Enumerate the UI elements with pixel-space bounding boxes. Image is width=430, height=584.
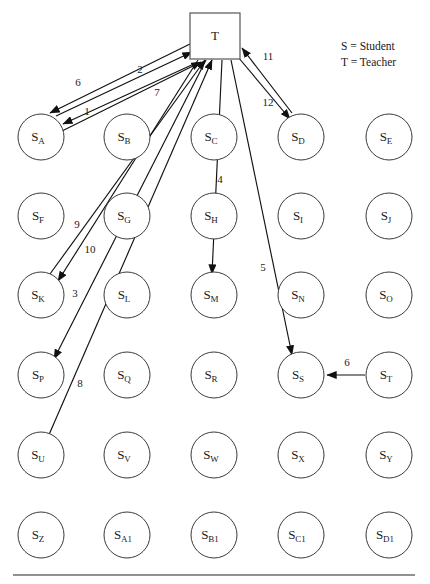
student-node-s_m[interactable]: SM bbox=[191, 272, 237, 318]
edge-label-1: 1 bbox=[84, 105, 90, 117]
edge-label-2: 2 bbox=[137, 63, 143, 75]
legend-line-1: S = Student bbox=[341, 40, 396, 52]
edge-label-12: 12 bbox=[263, 96, 274, 108]
teacher-node-layer: T bbox=[190, 13, 240, 59]
edge-label-8: 8 bbox=[77, 377, 83, 389]
edge-label-6: 6 bbox=[75, 76, 81, 88]
edge-t-to-s_d bbox=[238, 57, 290, 119]
edge-t-to-s_m bbox=[212, 60, 222, 274]
student-node-s_p[interactable]: SP bbox=[18, 352, 64, 398]
student-node-s_s[interactable]: SS bbox=[278, 352, 324, 398]
edge-label-7: 7 bbox=[154, 86, 160, 98]
student-node-s_q[interactable]: SQ bbox=[104, 352, 150, 398]
student-node-s_a[interactable]: SA bbox=[18, 114, 64, 160]
edge-label-11: 11 bbox=[263, 50, 274, 62]
student-node-s_n[interactable]: SN bbox=[278, 272, 324, 318]
nodes-layer: SASBSCSDSESFSGSHSISJSKSLSMSNSOSPSQSRSSST… bbox=[18, 114, 412, 558]
student-node-s_t[interactable]: ST bbox=[366, 352, 412, 398]
student-node-s_b[interactable]: SB bbox=[104, 114, 150, 160]
student-node-s_c[interactable]: SC bbox=[191, 114, 237, 160]
student-node-s_e[interactable]: SE bbox=[366, 114, 412, 160]
legend: S = StudentT = Teacher bbox=[341, 40, 396, 68]
student-node-s_r[interactable]: SR bbox=[191, 352, 237, 398]
student-node-s_c1[interactable]: SC1 bbox=[278, 512, 324, 558]
student-node-s_h[interactable]: SH bbox=[191, 193, 237, 239]
edge-label-10: 10 bbox=[85, 243, 97, 255]
teacher-label: T bbox=[211, 28, 219, 43]
student-node-s_u[interactable]: SU bbox=[18, 432, 64, 478]
edge-label-3: 3 bbox=[72, 287, 78, 299]
student-node-s_y[interactable]: SY bbox=[366, 432, 412, 478]
student-node-s_i[interactable]: SI bbox=[278, 193, 324, 239]
student-node-s_x[interactable]: SX bbox=[278, 432, 324, 478]
edge-s_k-to-t bbox=[50, 60, 205, 274]
edge-label-5: 5 bbox=[260, 261, 266, 273]
student-node-s_o[interactable]: SO bbox=[366, 272, 412, 318]
student-node-s_d[interactable]: SD bbox=[278, 114, 324, 160]
student-node-s_l[interactable]: SL bbox=[104, 272, 150, 318]
student-node-s_z[interactable]: SZ bbox=[18, 512, 64, 558]
student-node-s_a1[interactable]: SA1 bbox=[104, 512, 150, 558]
legend-line-2: T = Teacher bbox=[341, 56, 396, 68]
student-node-s_g[interactable]: SG bbox=[104, 193, 150, 239]
student-node-s_w[interactable]: SW bbox=[191, 432, 237, 478]
edge-t-to-s_k bbox=[58, 60, 198, 281]
diagram-canvas: SASBSCSDSESFSGSHSISJSKSLSMSNSOSPSQSRSSST… bbox=[0, 0, 430, 584]
student-node-s_v[interactable]: SV bbox=[104, 432, 150, 478]
teacher-node[interactable]: T bbox=[190, 13, 240, 59]
student-node-s_d1[interactable]: SD1 bbox=[366, 512, 412, 558]
edge-label-6: 6 bbox=[344, 356, 350, 368]
edge-label-4: 4 bbox=[217, 173, 223, 185]
student-node-s_j[interactable]: SJ bbox=[366, 193, 412, 239]
edge-label-9: 9 bbox=[74, 218, 80, 230]
student-node-s_b1[interactable]: SB1 bbox=[191, 512, 237, 558]
student-node-s_f[interactable]: SF bbox=[18, 193, 64, 239]
student-node-s_k[interactable]: SK bbox=[18, 272, 64, 318]
diagram-svg: SASBSCSDSESFSGSHSISJSKSLSMSNSOSPSQSRSSST… bbox=[0, 0, 430, 584]
